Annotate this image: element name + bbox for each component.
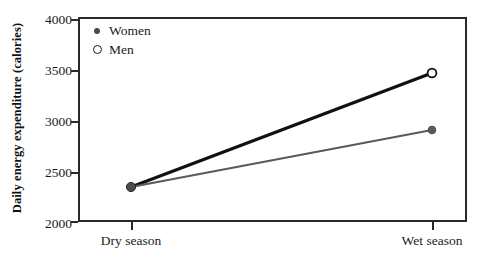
legend-label-women: Women (109, 23, 151, 39)
y-tick-label: 3500 (28, 63, 72, 79)
legend-item-women: Women (90, 21, 200, 40)
x-tick-label-dry-season: Dry season (61, 233, 201, 249)
x-axis-tick-labels: Dry season Wet season (0, 233, 480, 253)
x-tick-mark (432, 222, 434, 230)
data-point-women-wet-season (428, 126, 436, 134)
filled-circle-icon (90, 24, 104, 38)
data-point-dry-season (126, 182, 135, 191)
y-tick-label: 2500 (28, 165, 72, 181)
y-tick-label: 4000 (28, 12, 72, 28)
series-line-men (131, 73, 432, 187)
legend-item-men: Men (90, 40, 200, 59)
open-circle-icon (90, 43, 104, 57)
chart-legend: Women Men (90, 21, 200, 59)
x-tick-mark (131, 222, 133, 230)
y-tick-mark (71, 172, 78, 174)
x-tick-label-wet-season: Wet season (362, 233, 480, 249)
chart-figure: Daily energy expenditure (calories) 4000… (0, 0, 480, 261)
y-tick-mark (71, 19, 78, 21)
series-line-women (131, 130, 432, 187)
y-tick-label: 3000 (28, 114, 72, 130)
legend-label-men: Men (109, 42, 134, 58)
y-tick-mark (71, 70, 78, 72)
data-point-men-wet-season (428, 69, 437, 78)
y-tick-mark (71, 121, 78, 123)
